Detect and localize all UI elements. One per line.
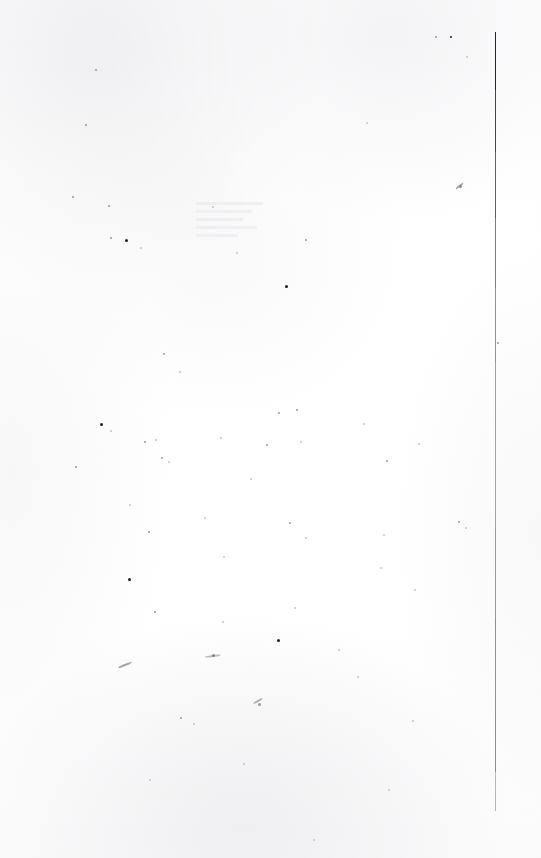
scan-speckle — [212, 206, 214, 208]
scan-speckle — [418, 443, 420, 445]
scan-speckle — [450, 36, 452, 38]
scan-speckle — [305, 537, 307, 539]
scan-speckle — [243, 763, 245, 765]
scan-speckle — [412, 720, 414, 722]
margin-rule-segment — [495, 288, 496, 362]
scan-speckle — [380, 567, 382, 569]
margin-rule-segment — [495, 528, 496, 618]
bleed-through-line — [196, 202, 263, 205]
scan-speckle — [465, 527, 467, 529]
scan-speckle — [338, 649, 340, 651]
scan-speckle — [148, 531, 150, 533]
bleed-through-line — [196, 210, 252, 213]
scan-speckle — [278, 412, 280, 414]
scan-speckle — [129, 504, 131, 506]
scan-speckle — [357, 676, 359, 678]
scan-speckle — [85, 124, 87, 126]
scan-speckle — [386, 460, 388, 462]
scan-speckle — [204, 517, 206, 519]
scan-speckle — [305, 239, 307, 241]
scan-speckle — [149, 779, 151, 781]
scan-speckle — [313, 839, 315, 841]
ink-stroke-mark — [205, 654, 221, 658]
scan-speckle — [266, 444, 268, 446]
margin-rule-segment — [495, 618, 496, 712]
scan-speckle — [110, 237, 112, 239]
scan-speckle — [128, 578, 131, 581]
scan-speckle — [161, 457, 163, 459]
scan-speckle — [300, 441, 302, 443]
scan-speckle — [277, 639, 280, 642]
margin-rule-segment — [495, 32, 496, 90]
scan-speckle — [258, 703, 261, 706]
scan-speckle — [95, 69, 97, 71]
scan-speckle — [144, 441, 146, 443]
scan-speckle — [383, 534, 385, 536]
margin-rule-segment — [495, 362, 496, 442]
margin-rule-segment — [495, 712, 496, 772]
scan-speckle — [168, 461, 170, 463]
scan-speckle — [100, 423, 103, 426]
scan-speckle — [497, 342, 499, 344]
scan-speckle — [75, 466, 77, 468]
scanned-page — [0, 0, 541, 858]
bleed-through-ghost — [196, 202, 274, 242]
scan-speckle — [125, 239, 128, 242]
scan-speckle — [466, 56, 468, 58]
scan-speckle — [108, 205, 110, 207]
scan-speckle — [72, 196, 74, 198]
scan-speckle — [193, 723, 195, 725]
scan-speckle — [180, 717, 182, 719]
scan-speckle — [285, 285, 288, 288]
scan-speckle — [250, 478, 252, 480]
scan-grain-overlay — [0, 0, 541, 858]
scan-speckle — [388, 789, 390, 791]
scan-speckle — [366, 122, 368, 124]
margin-rule-segment — [495, 90, 496, 152]
bleed-through-line — [196, 226, 257, 229]
scan-speckle — [414, 589, 416, 591]
vertical-margin-rule — [495, 0, 496, 858]
scan-speckle — [163, 353, 165, 355]
margin-rule-segment — [495, 772, 496, 811]
scan-speckle — [140, 247, 142, 249]
ink-stroke-mark — [118, 661, 132, 668]
scan-speckle — [222, 621, 224, 623]
scan-speckle — [223, 556, 225, 558]
scan-speckle — [220, 437, 222, 439]
scan-speckle — [289, 522, 291, 524]
scan-speckle — [363, 423, 365, 425]
bleed-through-line — [196, 218, 243, 221]
margin-rule-segment — [495, 152, 496, 218]
margin-rule-segment — [495, 218, 496, 288]
scan-speckle — [110, 430, 112, 432]
scan-speckle — [179, 371, 181, 373]
scan-speckle — [155, 439, 157, 441]
scan-speckle — [154, 611, 156, 613]
scan-speckle — [236, 252, 238, 254]
ink-stroke-mark — [455, 182, 463, 189]
scan-speckle — [458, 521, 460, 523]
scan-speckle — [294, 607, 296, 609]
scan-speckle — [435, 36, 437, 38]
bleed-through-line — [196, 234, 238, 237]
margin-rule-segment — [495, 442, 496, 528]
scan-speckle — [296, 409, 298, 411]
